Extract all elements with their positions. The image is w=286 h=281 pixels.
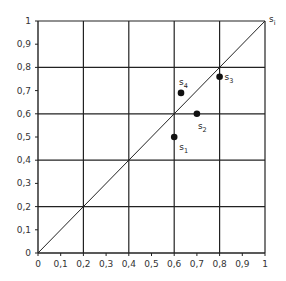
point-marker (171, 134, 178, 141)
y-tick-label: 0,3 (17, 178, 31, 188)
data-point-s4: s4 (178, 77, 188, 96)
point-marker (178, 90, 185, 97)
y-tick-label: 0,5 (17, 132, 31, 142)
point-label: s4 (179, 77, 188, 90)
y-tick-label: 0,8 (17, 62, 32, 72)
y-tick-label: 0,2 (17, 202, 31, 212)
x-tick-label: 0,5 (144, 259, 158, 269)
y-tick-label: 1 (25, 16, 31, 26)
x-tick-label: 0,3 (99, 259, 113, 269)
y-tick-label: 0,9 (17, 39, 32, 49)
point-label: s3 (225, 72, 234, 85)
point-marker (194, 111, 201, 118)
diagonal-line: si (38, 14, 276, 253)
x-axis-ticks: 00,10,20,30,40,50,60,70,80,91 (35, 253, 268, 269)
diagonal-label: si (269, 14, 276, 27)
scatter-chart: 00,10,20,30,40,50,60,70,80,91 00,10,20,3… (0, 0, 286, 281)
x-tick-label: 0,2 (76, 259, 90, 269)
x-tick-label: 1 (262, 259, 268, 269)
point-label: s1 (179, 142, 188, 155)
x-tick-label: 0,8 (212, 259, 227, 269)
point-label: s2 (198, 121, 207, 134)
y-tick-label: 0,6 (17, 109, 32, 119)
y-tick-label: 0,4 (17, 155, 32, 165)
x-tick-label: 0,4 (122, 259, 137, 269)
y-axis-ticks: 00,10,20,30,40,50,60,70,80,91 (17, 16, 38, 258)
y-tick-label: 0,1 (17, 225, 31, 235)
x-tick-label: 0,9 (235, 259, 250, 269)
x-tick-label: 0 (35, 259, 41, 269)
x-tick-label: 0,7 (190, 259, 204, 269)
data-point-s1: s1 (171, 134, 188, 155)
x-tick-label: 0,1 (54, 259, 68, 269)
x-tick-label: 0,6 (167, 259, 182, 269)
y-tick-label: 0,7 (17, 86, 31, 96)
point-marker (216, 73, 223, 80)
y-tick-label: 0 (25, 248, 31, 258)
data-point-s3: s3 (216, 72, 233, 85)
